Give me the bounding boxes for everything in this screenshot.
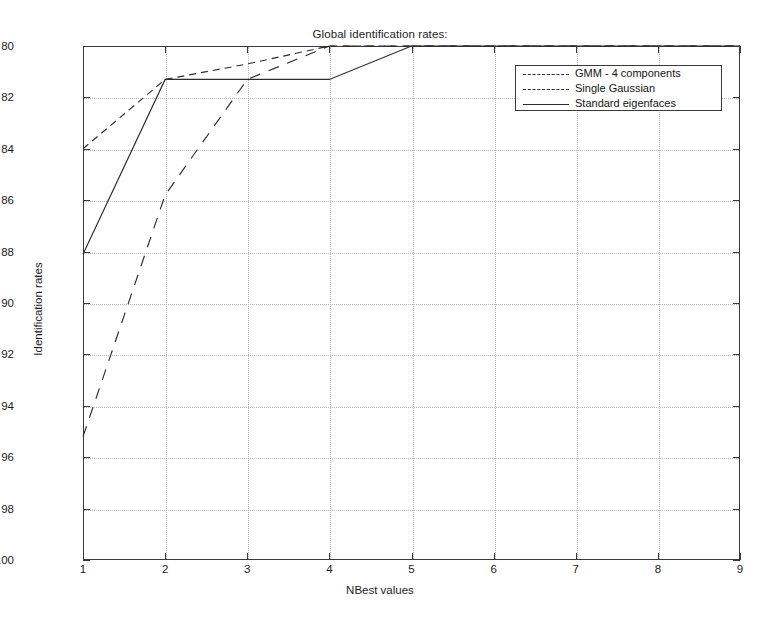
x-axis-tick-label: 8	[655, 563, 661, 575]
gridline-horizontal	[84, 201, 739, 202]
x-axis-label: NBest values	[0, 584, 760, 596]
y-axis-tick-label: 98	[1, 503, 14, 515]
x-axis-tick-label: 1	[80, 563, 86, 575]
y-axis-tick-label: 94	[1, 400, 14, 412]
y-axis-tick-label: 100	[0, 554, 14, 566]
y-axis-tick-mark	[733, 303, 740, 304]
y-axis-label: Identification rates	[32, 209, 44, 409]
x-axis-tick-mark	[494, 46, 495, 53]
legend-item-standard-eigenfaces: Standard eigenfaces	[516, 96, 721, 111]
x-axis-tick-mark	[412, 553, 413, 560]
x-axis-tick-label: 9	[737, 563, 743, 575]
gridline-horizontal	[84, 304, 739, 305]
y-axis-tick-mark	[83, 149, 90, 150]
x-axis-tick-mark	[412, 46, 413, 53]
y-axis-tick-label: 80	[1, 40, 14, 52]
legend-item-single-gaussian: Single Gaussian	[516, 81, 721, 96]
y-axis-tick-mark	[733, 354, 740, 355]
y-axis-tick-mark	[733, 457, 740, 458]
legend-label: Standard eigenfaces	[575, 98, 676, 109]
x-axis-tick-label: 4	[326, 563, 332, 575]
y-axis-tick-label: 92	[1, 348, 14, 360]
x-axis-tick-mark	[658, 46, 659, 53]
y-axis-tick-mark	[733, 97, 740, 98]
y-axis-tick-mark	[83, 200, 90, 201]
y-axis-tick-mark	[83, 46, 90, 47]
x-axis-tick-mark	[740, 553, 741, 560]
gridline-vertical	[659, 47, 660, 559]
gridline-horizontal	[84, 510, 739, 511]
y-axis-tick-mark	[733, 406, 740, 407]
legend-line-swatch-dashed-icon	[523, 69, 569, 79]
y-axis-tick-label: 86	[1, 194, 14, 206]
y-axis-tick-mark	[733, 46, 740, 47]
x-axis-tick-mark	[329, 46, 330, 53]
y-axis-tick-mark	[733, 509, 740, 510]
x-axis-tick-mark	[658, 553, 659, 560]
y-axis-tick-mark	[83, 457, 90, 458]
y-axis-tick-mark	[733, 149, 740, 150]
gridline-horizontal	[84, 458, 739, 459]
x-axis-tick-mark	[165, 46, 166, 53]
x-axis-tick-label: 3	[244, 563, 250, 575]
legend-label: Single Gaussian	[575, 83, 655, 94]
y-axis-tick-mark	[83, 303, 90, 304]
x-axis-tick-label: 2	[162, 563, 168, 575]
x-axis-tick-mark	[247, 553, 248, 560]
x-axis-tick-mark	[576, 553, 577, 560]
x-axis-tick-mark	[83, 46, 84, 53]
x-axis-tick-mark	[494, 553, 495, 560]
chart-title: Global identification rates:	[0, 28, 760, 40]
gridline-vertical	[248, 47, 249, 559]
x-axis-tick-mark	[83, 553, 84, 560]
y-axis-tick-label: 90	[1, 297, 14, 309]
legend-line-swatch-dashed-long-icon	[523, 84, 569, 94]
y-axis-tick-mark	[733, 200, 740, 201]
gridline-horizontal	[84, 407, 739, 408]
y-axis-tick-mark	[83, 354, 90, 355]
plot-area	[83, 46, 740, 560]
y-axis-tick-mark	[733, 252, 740, 253]
gridline-horizontal	[84, 355, 739, 356]
y-axis-tick-mark	[83, 97, 90, 98]
x-axis-tick-label: 6	[490, 563, 496, 575]
gridline-horizontal	[84, 253, 739, 254]
x-axis-tick-mark	[329, 553, 330, 560]
y-axis-tick-mark	[83, 252, 90, 253]
gridline-vertical	[166, 47, 167, 559]
chart-legend: GMM - 4 components Single Gaussian Stand…	[515, 65, 722, 111]
y-axis-tick-label: 82	[1, 91, 14, 103]
x-axis-tick-mark	[165, 553, 166, 560]
y-axis-tick-mark	[733, 560, 740, 561]
gridline-vertical	[330, 47, 331, 559]
figure-canvas: Global identification rates: Identificat…	[0, 0, 760, 630]
x-axis-tick-mark	[576, 46, 577, 53]
gridline-vertical	[413, 47, 414, 559]
gridline-horizontal	[84, 150, 739, 151]
legend-line-swatch-solid-icon	[523, 99, 569, 109]
y-axis-tick-mark	[83, 406, 90, 407]
y-axis-tick-mark	[83, 560, 90, 561]
legend-item-gmm-4-components: GMM - 4 components	[516, 66, 721, 81]
x-axis-tick-mark	[740, 46, 741, 53]
x-axis-tick-label: 7	[573, 563, 579, 575]
gridline-vertical	[495, 47, 496, 559]
y-axis-tick-label: 88	[1, 246, 14, 258]
x-axis-tick-mark	[247, 46, 248, 53]
legend-label: GMM - 4 components	[575, 68, 681, 79]
y-axis-tick-label: 96	[1, 451, 14, 463]
x-axis-tick-label: 5	[408, 563, 414, 575]
y-axis-tick-label: 84	[1, 143, 14, 155]
y-axis-tick-mark	[83, 509, 90, 510]
gridline-vertical	[577, 47, 578, 559]
